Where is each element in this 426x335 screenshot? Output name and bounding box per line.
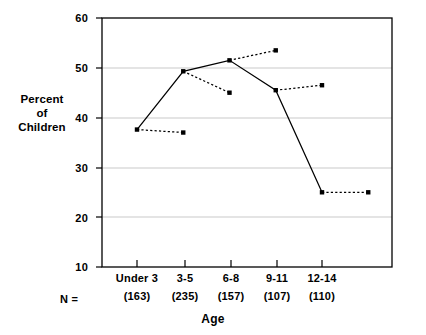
dashed-series-segment-1 [183,71,229,92]
solid-series-marker-3 [274,88,278,92]
x-axis-title: Age [0,312,426,326]
solid-series-marker-4 [320,190,324,194]
solid-series-marker-2 [227,58,231,62]
grid-lines [102,68,392,217]
chart-plot-area [0,0,426,335]
chart-figure: Percent of Children 60 50 40 30 20 10 [0,0,426,335]
n-legend-label: N = [60,293,78,305]
axis-frame [102,18,392,267]
dashed-series-segment-0 [137,130,183,133]
dashed-series-marker-1 [227,91,231,95]
n-value-1: (235) [160,290,210,302]
n-value-4: (110) [293,290,351,302]
x-tick-label-4: 12-14 [293,272,351,284]
dashed-series-segment-3 [276,85,322,90]
x-tick-label-0: Under 3 [107,272,167,284]
dashed-series-marker-4 [366,190,370,194]
n-value-0: (163) [107,290,167,302]
solid-series-marker-0 [135,127,139,131]
data-series-layer [135,48,371,194]
dashed-series-marker-0 [181,130,185,134]
solid-series-marker-1 [181,69,185,73]
dashed-series-marker-3 [320,83,324,87]
dashed-series-marker-2 [274,48,278,52]
y-axis-ticks [96,18,102,267]
solid-series-line [137,60,322,192]
x-axis-ticks [137,260,322,267]
dashed-series-segment-2 [230,50,276,60]
x-tick-label-1: 3-5 [160,272,210,284]
